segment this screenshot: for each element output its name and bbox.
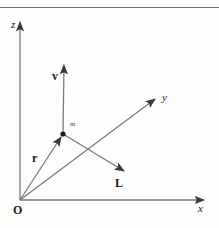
diagram-canvas <box>0 0 219 228</box>
z-axis-label: z <box>11 19 15 30</box>
position-vector-line <box>20 137 61 200</box>
point-mass-label: m <box>70 121 75 128</box>
origin-label: O <box>13 204 22 216</box>
vector-diagram-figure: z x y v r L m O <box>0 0 219 228</box>
angular-momentum-vector-line <box>63 134 124 171</box>
velocity-vector-label: v <box>52 70 58 82</box>
velocity-vector-line <box>63 65 64 134</box>
x-axis-label: x <box>198 203 203 214</box>
y-axis-label: y <box>162 92 167 103</box>
point-mass-dot <box>60 131 65 136</box>
angular-momentum-vector-label: L <box>115 177 123 189</box>
position-vector-label: r <box>32 152 37 164</box>
